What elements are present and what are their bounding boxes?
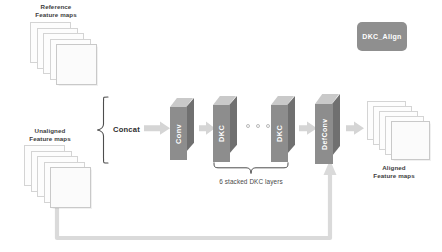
- aligned-feature-maps-label: Aligned Feature maps: [356, 164, 432, 180]
- defconv-block-label: DefConv: [315, 104, 333, 164]
- dkc-align-legend-chip: DKC_Align: [357, 22, 407, 51]
- concat-brace-icon: [96, 96, 112, 164]
- feature-map-card: [391, 121, 430, 160]
- ellipsis-dot: [256, 124, 260, 128]
- unaligned-feature-maps-label: Unaligned Feature maps: [12, 127, 88, 143]
- dkc-block-label: DKC: [271, 105, 288, 162]
- diagram-canvas: Reference Feature maps Unaligned Feature…: [0, 0, 442, 252]
- conv-block-side-face: [186, 98, 194, 152]
- ellipsis-dot: [246, 124, 250, 128]
- dkc-block-side-face: [287, 96, 295, 154]
- defconv-block: DefConv: [315, 94, 347, 164]
- conv-block: Conv: [170, 98, 200, 160]
- defconv-block-side-face: [332, 94, 340, 156]
- dkc-stack-brace-icon: [213, 162, 289, 175]
- dkc-block-side-face: [229, 96, 237, 154]
- feature-map-card: [50, 167, 91, 208]
- aligned-feature-maps-stack: [367, 101, 442, 167]
- feature-map-card: [56, 44, 97, 85]
- dkc-stack-note: 6 stacked DKC layers: [206, 178, 296, 185]
- dkc-block-first: DKC: [213, 96, 243, 162]
- ellipsis-dot: [266, 124, 270, 128]
- reference-feature-maps-stack: [30, 22, 116, 92]
- dkc-block-label: DKC: [213, 105, 230, 162]
- arrow-defconv-to-aligned: [346, 121, 365, 137]
- concat-label: Concat: [113, 125, 140, 134]
- conv-block-label: Conv: [170, 107, 187, 160]
- dkc-block-last: DKC: [271, 96, 301, 162]
- reference-feature-maps-label: Reference Feature maps: [18, 3, 94, 19]
- arrow-concat-to-conv: [144, 121, 172, 137]
